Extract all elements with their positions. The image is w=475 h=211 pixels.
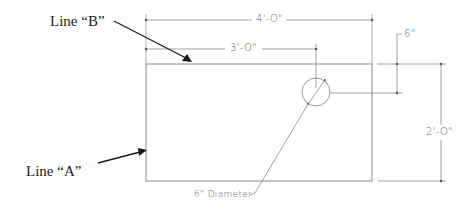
line-b-arrow: [114, 21, 192, 62]
dim-overall-height-label: 2'-O": [426, 127, 453, 137]
plate-rectangle: [146, 64, 372, 181]
line-a-arrow: [98, 148, 147, 163]
dim-hole-offset-x-label: 3'-O": [230, 43, 257, 53]
line-b-label: Line “B”: [50, 14, 105, 29]
line-a-label: Line “A”: [26, 164, 81, 179]
dim-overall-width-label: 4'-O": [256, 14, 283, 24]
dim-hole-offset-y: [377, 34, 446, 94]
drawing-canvas: Line “B” Line “A” 4'-O" 3'-O" 6" 2'-O" 6…: [0, 0, 475, 211]
dim-overall-height: [378, 63, 446, 182]
hole-diameter-label: 6" Diameter: [194, 190, 252, 199]
dim-hole-offset-y-label: 6": [404, 29, 416, 39]
